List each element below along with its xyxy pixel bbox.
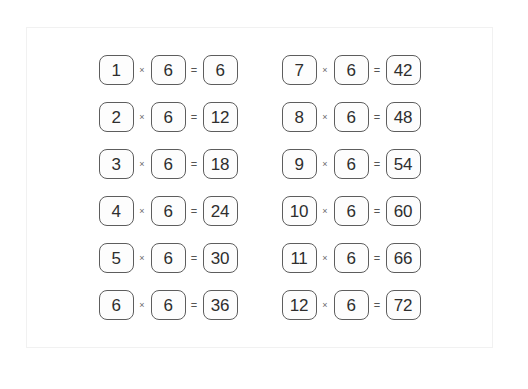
multiplier-box: 6 — [334, 290, 369, 320]
fact-row: 4×6=24 — [99, 196, 238, 226]
equals-operator: = — [369, 300, 386, 311]
multiplicand-box: 2 — [99, 102, 134, 132]
equals-operator: = — [186, 206, 203, 217]
product-box: 6 — [203, 55, 238, 85]
equals-operator: = — [186, 112, 203, 123]
multiplier-box: 6 — [151, 290, 186, 320]
multiplicand-box: 3 — [99, 149, 134, 179]
product-box: 72 — [386, 290, 421, 320]
fact-row: 5×6=30 — [99, 243, 238, 273]
multiplier-box: 6 — [151, 149, 186, 179]
product-box: 12 — [203, 102, 238, 132]
multiplicand-box: 10 — [282, 196, 317, 226]
multiplicand-box: 9 — [282, 149, 317, 179]
equals-operator: = — [369, 65, 386, 76]
multiplier-box: 6 — [334, 243, 369, 273]
product-box: 48 — [386, 102, 421, 132]
multiply-operator: × — [317, 113, 334, 122]
product-box: 66 — [386, 243, 421, 273]
multiply-operator: × — [317, 160, 334, 169]
left-column: 1×6=62×6=123×6=184×6=245×6=306×6=36 — [99, 55, 238, 320]
multiplier-box: 6 — [334, 55, 369, 85]
product-box: 30 — [203, 243, 238, 273]
multiplier-box: 6 — [334, 149, 369, 179]
multiply-operator: × — [134, 301, 151, 310]
fact-row: 3×6=18 — [99, 149, 238, 179]
equals-operator: = — [186, 159, 203, 170]
equals-operator: = — [369, 253, 386, 264]
product-box: 42 — [386, 55, 421, 85]
fact-row: 2×6=12 — [99, 102, 238, 132]
fact-row: 6×6=36 — [99, 290, 238, 320]
multiply-operator: × — [134, 66, 151, 75]
fact-row: 7×6=42 — [282, 55, 421, 85]
multiply-operator: × — [317, 254, 334, 263]
fact-row: 11×6=66 — [282, 243, 421, 273]
multiplier-box: 6 — [151, 243, 186, 273]
fact-row: 10×6=60 — [282, 196, 421, 226]
fact-row: 12×6=72 — [282, 290, 421, 320]
multiply-operator: × — [134, 207, 151, 216]
equals-operator: = — [369, 159, 386, 170]
multiply-operator: × — [134, 113, 151, 122]
right-column: 7×6=428×6=489×6=5410×6=6011×6=6612×6=72 — [282, 55, 421, 320]
equals-operator: = — [186, 253, 203, 264]
multiplicand-box: 12 — [282, 290, 317, 320]
multiplier-box: 6 — [151, 55, 186, 85]
multiplicand-box: 4 — [99, 196, 134, 226]
multiplier-box: 6 — [151, 196, 186, 226]
fact-row: 8×6=48 — [282, 102, 421, 132]
equals-operator: = — [369, 206, 386, 217]
fact-row: 1×6=6 — [99, 55, 238, 85]
equals-operator: = — [186, 65, 203, 76]
multiplicand-box: 11 — [282, 243, 317, 273]
multiplicand-box: 1 — [99, 55, 134, 85]
multiplier-box: 6 — [334, 196, 369, 226]
multiplicand-box: 5 — [99, 243, 134, 273]
product-box: 18 — [203, 149, 238, 179]
facts-columns: 1×6=62×6=123×6=184×6=245×6=306×6=367×6=4… — [27, 28, 492, 347]
multiplicand-box: 6 — [99, 290, 134, 320]
product-box: 36 — [203, 290, 238, 320]
multiply-operator: × — [134, 254, 151, 263]
multiply-operator: × — [134, 160, 151, 169]
multiply-operator: × — [317, 66, 334, 75]
multiplier-box: 6 — [151, 102, 186, 132]
product-box: 24 — [203, 196, 238, 226]
worksheet-card: 1×6=62×6=123×6=184×6=245×6=306×6=367×6=4… — [26, 27, 493, 348]
multiplicand-box: 8 — [282, 102, 317, 132]
product-box: 60 — [386, 196, 421, 226]
fact-row: 9×6=54 — [282, 149, 421, 179]
multiplicand-box: 7 — [282, 55, 317, 85]
multiply-operator: × — [317, 207, 334, 216]
equals-operator: = — [186, 300, 203, 311]
product-box: 54 — [386, 149, 421, 179]
equals-operator: = — [369, 112, 386, 123]
multiply-operator: × — [317, 301, 334, 310]
multiplier-box: 6 — [334, 102, 369, 132]
